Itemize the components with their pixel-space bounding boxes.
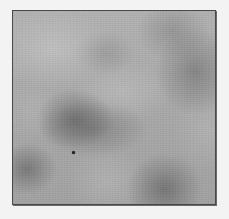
dark-speck [72, 151, 75, 154]
noise-texture-frame [12, 10, 216, 205]
image-canvas [0, 0, 229, 219]
noise-grain-overlay [13, 11, 215, 204]
